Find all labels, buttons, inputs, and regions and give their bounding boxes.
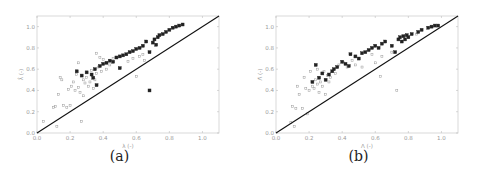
y-tick-label: 0.6 (26, 66, 35, 72)
data-point (62, 104, 64, 106)
data-point (144, 60, 146, 62)
data-point (82, 79, 84, 81)
y-tick-label: 0.2 (265, 109, 274, 115)
data-point (364, 51, 367, 54)
data-point (148, 51, 151, 54)
data-point (181, 23, 184, 26)
data-point (168, 28, 171, 31)
y-tick-label: 0.0 (265, 130, 274, 136)
data-point (161, 33, 164, 36)
data-point (101, 70, 103, 72)
x-tick-label: 0.2 (66, 135, 75, 141)
data-point (135, 47, 138, 50)
data-point (297, 85, 299, 87)
data-point (303, 77, 305, 79)
data-point (102, 62, 105, 65)
data-point (77, 86, 79, 88)
data-point (430, 25, 433, 28)
data-point (374, 44, 377, 47)
panel-b: 0.00.20.40.60.81.00.00.20.40.60.81.0Λ (-… (239, 0, 478, 176)
data-point (381, 55, 383, 57)
data-point (77, 62, 79, 64)
data-point (354, 64, 356, 66)
data-point (292, 105, 294, 107)
data-point (417, 30, 420, 33)
data-point (135, 76, 137, 78)
data-point (328, 81, 330, 83)
x-tick-label: 1.0 (437, 135, 446, 141)
data-point (374, 62, 376, 64)
data-point (165, 30, 168, 33)
data-point (178, 24, 181, 27)
data-point (96, 72, 98, 74)
data-point (391, 51, 393, 53)
x-tick-label: 1.0 (198, 135, 207, 141)
data-point (90, 73, 93, 76)
data-point (105, 68, 107, 70)
data-point (349, 53, 352, 56)
data-point (293, 126, 295, 128)
data-point (407, 36, 410, 39)
data-point (99, 56, 101, 58)
data-point (131, 50, 134, 53)
data-point (115, 56, 118, 59)
data-point (305, 87, 307, 89)
data-point (396, 89, 398, 91)
data-point (158, 34, 161, 37)
data-point (92, 87, 94, 89)
data-point (71, 85, 73, 87)
data-point (321, 72, 324, 75)
data-point (344, 62, 347, 65)
data-point (315, 79, 317, 81)
panel-a: 0.00.20.40.60.81.00.00.20.40.60.81.0λ (-… (0, 0, 239, 176)
data-point (341, 60, 344, 63)
data-point (370, 46, 373, 49)
data-point (298, 94, 300, 96)
data-point (81, 120, 83, 122)
x-tick-label: 0.2 (305, 135, 314, 141)
data-point (84, 82, 86, 84)
data-point (153, 38, 156, 41)
data-point (361, 66, 363, 68)
data-point (96, 52, 98, 54)
x-tick-label: 0.8 (404, 135, 413, 141)
data-point (400, 40, 403, 43)
data-point (69, 104, 71, 106)
data-point (318, 76, 321, 79)
data-point (318, 92, 320, 94)
data-point (316, 68, 318, 70)
x-tick-label: 0.6 (371, 135, 380, 141)
x-tick-label: 0.4 (99, 135, 108, 141)
data-point (98, 64, 101, 67)
data-point (336, 66, 339, 69)
identity-line (276, 16, 458, 133)
data-point (82, 95, 84, 97)
data-point (141, 44, 144, 47)
data-point (67, 88, 69, 90)
data-point (301, 108, 303, 110)
data-point (118, 55, 121, 58)
x-tick-label: 0.8 (165, 135, 174, 141)
data-point (128, 51, 131, 54)
series-light (43, 52, 146, 127)
data-point (66, 106, 68, 108)
data-point (320, 81, 322, 83)
data-point (367, 49, 370, 52)
data-point (327, 73, 330, 76)
data-point (402, 35, 405, 38)
data-point (371, 53, 373, 55)
series-light (290, 33, 418, 128)
data-point (310, 70, 312, 72)
data-point (85, 71, 88, 74)
data-point (314, 63, 317, 66)
data-point (125, 53, 128, 56)
data-point (139, 55, 141, 57)
data-point (148, 89, 151, 92)
data-point (145, 40, 148, 43)
data-point (91, 69, 93, 71)
data-point (102, 59, 104, 61)
data-point (427, 26, 430, 29)
y-axis-label: λ̂ (-) (17, 69, 24, 80)
data-point (112, 58, 114, 60)
y-axis-label: Λ̂ (-) (257, 69, 263, 81)
